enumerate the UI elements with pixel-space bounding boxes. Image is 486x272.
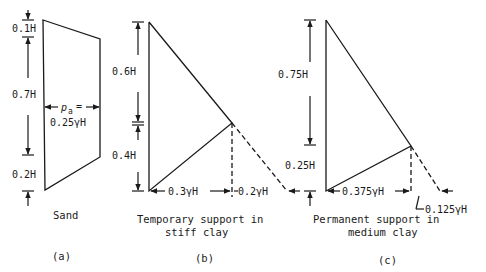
pa-subscript: a: [68, 107, 73, 116]
dim-label-0-75H: 0.75H: [278, 69, 308, 80]
caption-b-line2: stiff clay: [165, 226, 228, 238]
dim-0-1H: 0.1H: [12, 10, 36, 78]
dim-label-0-2H: 0.2H: [12, 169, 36, 180]
panel-c-medium-clay: 0.75H 0.25H 0.375γH 0.125γH Permanent su…: [278, 20, 467, 266]
earth-pressure-diagram: 0.1H 0.7H 0.2H p a = 0.25γH Sand (a): [0, 0, 486, 272]
base-value-0-3yH: 0.3γH: [168, 186, 198, 197]
dim-label-0-7H: 0.7H: [12, 89, 36, 100]
dim-label-0-4H: 0.4H: [112, 150, 136, 161]
medium-clay-pressure-envelope: [326, 20, 411, 191]
dim-0-7H: 0.7H: [12, 89, 36, 155]
caption-c-line2: medium clay: [348, 226, 418, 238]
caption-c-line1: Permanent support in: [313, 213, 439, 225]
sand-pressure-trapezoid: [43, 20, 100, 190]
panel-label-c: (c): [378, 254, 397, 266]
base-dims-c: 0.375γH 0.125γH: [328, 186, 467, 215]
dashed-extension-c: [411, 146, 440, 191]
base-dims-b: 0.3γH 0.2γH: [151, 186, 300, 197]
dim-label-0-6H: 0.6H: [112, 66, 136, 77]
dim-0-25H: 0.25H: [285, 160, 316, 206]
caption-a: Sand: [53, 209, 78, 221]
base-value-0-2yH: 0.2γH: [238, 186, 268, 197]
panel-label-b: (b): [195, 252, 214, 264]
pa-symbol: p: [60, 102, 67, 113]
caption-b-line1: Temporary support in: [137, 213, 263, 225]
base-value-0-375yH: 0.375γH: [342, 186, 384, 197]
stiff-clay-pressure-envelope: [149, 22, 232, 191]
pa-equals: =: [76, 101, 82, 112]
dim-label-0-1H: 0.1H: [12, 23, 36, 34]
dim-0-2H: 0.2H: [12, 169, 36, 206]
dashed-extension-b: [232, 123, 287, 191]
panel-a-sand: 0.1H 0.7H 0.2H p a = 0.25γH Sand (a): [12, 10, 100, 262]
dim-0-75H: 0.75H: [278, 20, 316, 145]
panel-label-a: (a): [52, 250, 71, 262]
dim-0-4H: 0.4H: [112, 125, 144, 191]
dim-label-0-25H: 0.25H: [285, 160, 315, 171]
panel-b-stiff-clay: 0.6H 0.4H 0.3γH 0.2γH Temporary support …: [112, 22, 300, 264]
dim-0-6H: 0.6H: [112, 22, 144, 122]
pa-value: 0.25γH: [50, 117, 86, 128]
pa-dimension: p a = 0.25γH: [45, 101, 99, 128]
